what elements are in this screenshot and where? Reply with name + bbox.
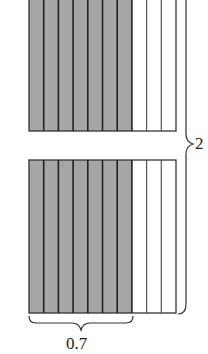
right-brace: [178, 0, 193, 314]
bottom-rectangle: [29, 160, 176, 313]
bottom-brace: [29, 316, 133, 330]
shaded-fraction-label: 0.7: [66, 334, 87, 354]
top-rectangle: [29, 0, 176, 131]
total-label: 2: [195, 134, 204, 154]
fraction-diagram: [0, 0, 208, 354]
